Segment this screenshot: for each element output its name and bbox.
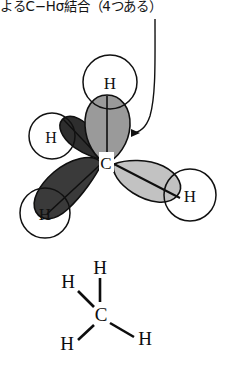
bond-c-h-left xyxy=(78,291,94,307)
lewis-hydrogen-top: H xyxy=(93,257,107,278)
bond-c-h-bottom-left xyxy=(78,325,94,340)
hydrogen-label-top: H xyxy=(104,74,116,93)
hydrogen-label-right: H xyxy=(184,187,196,206)
hydrogen-label-upper-left: H xyxy=(45,129,57,146)
hydrogen-label-lower-left: H xyxy=(39,205,51,224)
sp3-orbital-diagram: H H H H C xyxy=(20,55,216,238)
lewis-hydrogen-bottom-left: H xyxy=(60,333,74,354)
lewis-hydrogen-left: H xyxy=(61,271,75,292)
figure-graphic: H H H H C xyxy=(0,0,237,373)
orbital-lobe-right xyxy=(113,160,180,202)
lewis-hydrogen-right: H xyxy=(138,328,152,349)
leader-line xyxy=(131,19,155,133)
carbon-label: C xyxy=(100,154,111,173)
methane-orbital-figure: よるC−Hσ結合（4つある） xyxy=(0,0,237,373)
bond-c-h-right xyxy=(110,323,134,337)
lewis-structure-methane: H H C H H xyxy=(60,257,152,354)
lewis-carbon: C xyxy=(95,304,108,325)
carbon-center: C xyxy=(99,152,114,173)
